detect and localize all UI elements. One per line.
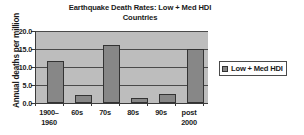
x-tick-mark-1 (63, 103, 64, 106)
x-tick-label-post-2000-line-1: post (169, 108, 209, 118)
x-tick-mark-5 (175, 103, 176, 106)
bar-80s[interactable] (131, 98, 148, 103)
bar-70s[interactable] (103, 45, 120, 103)
bar-60s[interactable] (75, 95, 92, 103)
plot-area (35, 31, 208, 104)
x-tick-label-post-2000: post 2000 (169, 108, 209, 127)
x-tick-mark-4 (147, 103, 148, 106)
legend-entry-label: Low + Med HDI (231, 64, 283, 73)
y-tick-label-15: 15.0 (2, 45, 32, 54)
bar-90s[interactable] (159, 94, 176, 103)
gridline-15 (36, 49, 208, 50)
chart-title: Earthquake Death Rates: Low + Med HDI Co… (42, 3, 238, 22)
x-tick-mark-0 (35, 103, 36, 106)
x-tick-mark-2 (91, 103, 92, 106)
bar-1900-1960[interactable] (47, 61, 64, 103)
x-tick-label-1900-1960-line-2: 1960 (29, 118, 69, 128)
earthquake-death-rates-bar-chart: Earthquake Death Rates: Low + Med HDI Co… (0, 0, 304, 135)
y-tick-label-5: 5.0 (2, 81, 32, 90)
bar-post-2000[interactable] (187, 49, 204, 103)
y-tick-label-10: 10.0 (2, 63, 32, 72)
y-axis-title: Annual deaths per million (12, 9, 21, 113)
legend[interactable]: Low + Med HDI (219, 61, 287, 76)
gridline-20 (36, 31, 208, 32)
chart-title-line-2: Countries (42, 13, 238, 23)
x-tick-label-post-2000-line-2: 2000 (169, 118, 209, 128)
x-tick-mark-3 (119, 103, 120, 106)
x-tick-mark-6 (203, 103, 204, 106)
y-tick-label-20: 20.0 (2, 27, 32, 36)
chart-title-line-1: Earthquake Death Rates: Low + Med HDI (42, 3, 238, 13)
y-tick-label-0: 0.0 (2, 99, 32, 108)
legend-swatch-icon (222, 66, 228, 72)
